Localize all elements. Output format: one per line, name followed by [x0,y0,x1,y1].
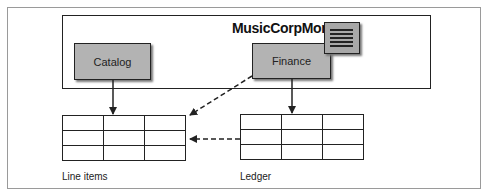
edge-finance-lineitems-dashed [190,76,252,115]
edges [0,0,490,193]
